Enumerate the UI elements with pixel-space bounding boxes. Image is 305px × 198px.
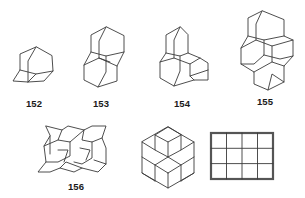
compound-156-structure xyxy=(36,124,118,176)
compound-label-154: 154 xyxy=(167,98,197,109)
hexagonal-rhombus-lattice xyxy=(140,125,196,191)
compound-153-structure xyxy=(82,26,124,90)
compound-label-155: 155 xyxy=(250,96,280,107)
square-grid-lattice xyxy=(210,132,274,180)
compound-label-156: 156 xyxy=(61,181,91,192)
compound-154-structure xyxy=(156,26,212,90)
compound-152-structure xyxy=(12,44,58,89)
compound-label-152: 152 xyxy=(19,98,49,109)
compound-155-structure xyxy=(236,10,296,92)
compound-label-153: 153 xyxy=(86,98,116,109)
